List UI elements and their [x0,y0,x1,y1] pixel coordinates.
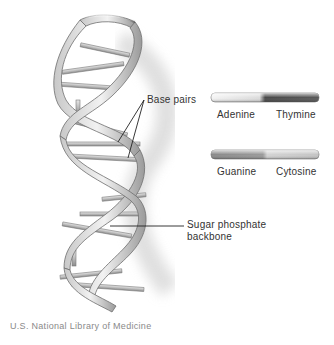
adenine-label: Adenine [217,109,255,120]
base-pairs-label: Base pairs [147,94,196,105]
legend-bar-guanine-cytosine [211,150,319,159]
backbone-label: backbone [187,231,232,242]
credit-text: U.S. National Library of Medicine [10,321,151,331]
cytosine-label: Cytosine [276,166,317,177]
legend-bar-adenine-thymine [211,93,319,102]
sugar-phosphate-backbone [54,15,146,312]
guanine-label: Guanine [217,166,256,177]
sugar-phosphate-label: Sugar phosphate [187,219,266,230]
thymine-label: Thymine [276,109,316,120]
